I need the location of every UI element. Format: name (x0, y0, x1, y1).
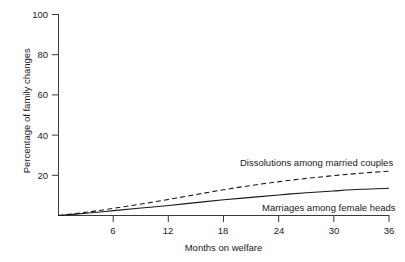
x-tick-label-6: 6 (100, 226, 126, 236)
y-tick-label-100: 100 (24, 10, 48, 20)
x-tick-marks (113, 215, 389, 222)
x-tick-label-24: 24 (266, 226, 292, 236)
x-tick-label-12: 12 (155, 226, 181, 236)
series-label-dissolutions: Dissolutions among married couples (240, 158, 393, 168)
x-tick-label-18: 18 (210, 226, 236, 236)
plot-area (0, 0, 405, 262)
x-tick-label-30: 30 (321, 226, 347, 236)
y-tick-marks (52, 15, 58, 176)
x-tick-label-36: 36 (376, 226, 402, 236)
y-axis-title: Percentage of family changes (22, 26, 32, 196)
series-label-marriages: Marriages among female heads (262, 203, 396, 213)
x-axis-title: Months on welfare (58, 243, 389, 253)
chart-container: 100 80 60 40 20 6 12 18 24 30 36 Percent… (0, 0, 405, 262)
